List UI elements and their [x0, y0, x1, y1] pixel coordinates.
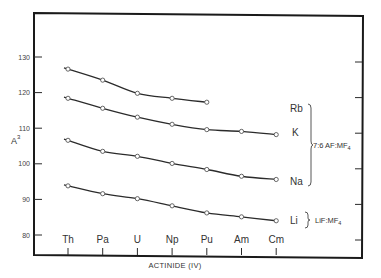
y-tick-label: 80 — [22, 232, 30, 239]
group-label-af: 7:6 AF:MF4 — [313, 141, 351, 151]
data-point-na — [135, 154, 139, 158]
x-tick-label-u: U — [134, 234, 141, 245]
x-axis-ticks: ThPaUNpPuAmCm — [62, 234, 284, 255]
y-tick-label: 90 — [22, 196, 30, 203]
y-tick-label: 110 — [19, 125, 30, 132]
x-tick-label-np: Np — [166, 234, 179, 245]
data-point-li — [239, 215, 243, 219]
x-tick-label-am: Am — [234, 234, 249, 245]
data-point-na — [205, 167, 209, 171]
y-axis-ticks: 8090100110120130 — [18, 54, 42, 239]
data-point-k — [239, 129, 243, 133]
data-point-rb — [170, 96, 174, 100]
data-point-na — [274, 177, 278, 181]
x-tick-label-pa: Pa — [97, 234, 110, 245]
data-point-k — [274, 133, 278, 137]
series-line-na — [64, 139, 276, 179]
series-label-na: Na — [290, 176, 303, 187]
data-point-rb — [205, 100, 209, 104]
data-point-k — [170, 122, 174, 126]
data-point-li — [274, 219, 278, 223]
y-tick-label: 120 — [18, 89, 30, 96]
data-point-k — [101, 106, 105, 110]
data-point-li — [135, 197, 139, 201]
data-point-na — [101, 149, 105, 153]
x-tick-label-cm: Cm — [268, 234, 284, 245]
x-axis-label: ACTINIDE (IV) — [148, 261, 201, 270]
group-brace-lif — [305, 212, 310, 228]
plot-frame — [34, 13, 363, 258]
group-label-lif: LiF:MF4 — [315, 216, 341, 226]
series-label-li: Li — [290, 215, 298, 226]
data-point-li — [66, 184, 70, 188]
data-point-k — [205, 128, 209, 132]
x-tick-label-th: Th — [62, 234, 74, 245]
data-point-na — [239, 174, 243, 178]
data-point-rb — [101, 78, 105, 82]
y-tick-label: 100 — [18, 160, 30, 167]
chart: 8090100110120130 ThPaUNpPuAmCm A3 ACTINI… — [0, 0, 381, 278]
data-point-rb — [135, 91, 139, 95]
series-line-k — [64, 97, 276, 134]
series-line-li — [64, 185, 276, 221]
right-axis-ticks — [355, 62, 362, 240]
data-point-rb — [66, 67, 70, 71]
data-point-li — [101, 192, 105, 196]
data-point-li — [170, 204, 174, 208]
y-tick-label: 130 — [18, 54, 30, 61]
series-layer — [64, 67, 278, 223]
series-label-k: K — [292, 127, 299, 138]
data-point-k — [66, 96, 70, 100]
series-line-rb — [64, 68, 207, 102]
data-point-na — [66, 138, 70, 142]
series-label-rb: Rb — [290, 103, 303, 114]
x-tick-label-pu: Pu — [201, 234, 213, 245]
y-axis-label: A3 — [11, 134, 21, 146]
data-point-na — [170, 161, 174, 165]
data-point-li — [205, 211, 209, 215]
data-point-k — [135, 115, 139, 119]
